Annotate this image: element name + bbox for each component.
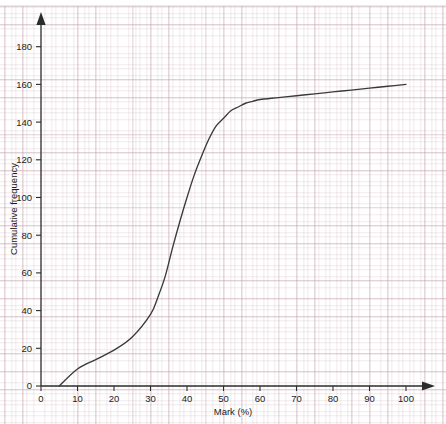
y-tick-label: 160: [16, 79, 32, 90]
x-tick-label: 40: [182, 393, 193, 404]
x-tick-label: 50: [218, 393, 229, 404]
cumulative-frequency-curve: [59, 84, 406, 386]
x-tick-label: 90: [364, 393, 375, 404]
x-tick-label: 0: [38, 393, 43, 404]
x-axis: [41, 381, 435, 390]
y-axis-title: Cumulative frequency: [8, 163, 19, 255]
x-tick-labels: 0 10 20 30 40 50 60 70 80 90 100: [38, 393, 414, 404]
y-tick-label: 40: [21, 305, 32, 316]
y-tick-label: 180: [16, 41, 32, 52]
x-tick-label: 100: [398, 393, 414, 404]
y-tick-label: 0: [27, 380, 32, 391]
x-tick-label: 70: [291, 393, 302, 404]
x-tick-label: 20: [109, 393, 120, 404]
cumulative-frequency-chart: 0 10 20 30 40 50 60 70 80 90 100 0 20 40…: [0, 0, 446, 424]
x-tick-label: 60: [255, 393, 266, 404]
x-tick-label: 30: [145, 393, 156, 404]
up-arrow-icon: [36, 12, 45, 25]
y-tick-label: 80: [21, 230, 32, 241]
y-tick-label: 140: [16, 117, 32, 128]
x-tick-label: 80: [328, 393, 339, 404]
plot-area: 0 10 20 30 40 50 60 70 80 90 100 0 20 40…: [0, 0, 446, 424]
y-axis-ticks: [36, 47, 41, 386]
y-tick-label: 20: [21, 343, 32, 354]
right-arrow-icon: [422, 381, 435, 390]
y-axis: [36, 12, 45, 386]
x-tick-label: 10: [72, 393, 83, 404]
y-tick-label: 60: [21, 267, 32, 278]
x-axis-ticks: [41, 386, 406, 391]
x-axis-title: Mark (%): [214, 406, 253, 417]
